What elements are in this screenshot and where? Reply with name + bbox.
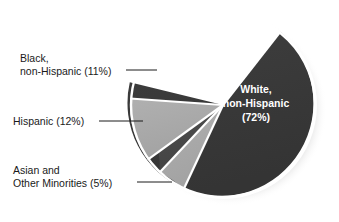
callout-label-black-line1: Black, xyxy=(20,52,49,64)
callout-label-hispanic-line1: Hispanic (12%) xyxy=(13,115,84,127)
callout-label-asian: Asian and Other Minorities (5%) xyxy=(13,164,112,189)
slice-label-white-line2: non-Hispanic xyxy=(223,97,290,109)
callout-label-asian-line1: Asian and xyxy=(13,164,60,176)
slice-label-white-line1: White, xyxy=(240,83,272,95)
callout-label-black-line2: non-Hispanic (11%) xyxy=(20,65,111,77)
slice-label-white-line3: (72%) xyxy=(242,111,270,123)
pie-chart-svg: Black, non-Hispanic (11%) Hispanic (12%)… xyxy=(0,0,339,222)
pie-chart: Black, non-Hispanic (11%) Hispanic (12%)… xyxy=(0,0,339,222)
callout-label-hispanic: Hispanic (12%) xyxy=(13,115,84,127)
callout-label-black: Black, non-Hispanic (11%) xyxy=(20,52,111,77)
callout-label-asian-line2: Other Minorities (5%) xyxy=(13,177,112,189)
